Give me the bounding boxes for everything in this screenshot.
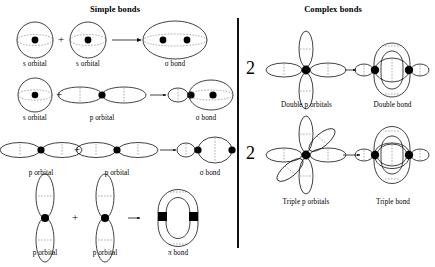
sigma-bond-sp [168,80,233,110]
label-sigma-bond-pp: σ bond [180,169,240,177]
plus-sign-2: + [56,88,62,100]
double-p-orbitals [266,31,346,109]
plus-sign-1: + [58,33,64,45]
double-bond-result [355,43,429,97]
label-pi-bond: π bond [148,249,208,257]
label-s-orbital-1: s orbital [5,60,65,68]
label-triple-bond: Triple bond [357,198,429,206]
plus-sign-4: + [72,211,78,223]
p-orbital-horizontal-1 [58,87,146,103]
plus-sign-3: + [74,143,80,155]
diagram-artwork [0,0,435,267]
orbital-bonding-diagram: Simple bonds Complex bonds [0,0,435,267]
row-double-bond [266,31,429,109]
label-sigma-bond-ss: σ bond [145,60,205,68]
pi-bond-cloud [158,190,198,247]
sigma-bond-pp [177,137,236,163]
label-p-orbital-3: p orbital [87,169,147,177]
triple-p-orbitals [266,116,346,194]
label-p-orbital-4: p orbital [15,249,75,257]
s-orbital-2 [70,22,106,58]
label-triple-p-orbitals: Triple p orbitals [266,198,346,206]
p-orbital-horizontal-2 [0,143,82,158]
s-orbital-3 [18,78,52,112]
triple-bond-result [355,127,429,184]
coefficient-double: 2 [246,58,255,79]
label-s-orbital-2: s orbital [58,60,118,68]
label-p-orbital-5: p orbital [75,249,135,257]
row-triple-bond [266,116,429,194]
s-orbital-1 [17,22,53,58]
label-p-orbital-1: p orbital [72,114,132,122]
label-double-p-orbitals: Double p orbitals [264,101,349,109]
p-orbital-horizontal-3 [76,143,158,158]
label-sigma-bond-sp: σ bond [176,114,236,122]
label-double-bond: Double bond [355,101,430,109]
label-s-orbital-3: s orbital [5,114,65,122]
coefficient-triple: 2 [246,143,255,164]
row-s-plus-s [17,21,207,59]
label-p-orbital-2: p orbital [11,169,71,177]
row-s-plus-p [18,78,233,112]
row-p-plus-p [0,137,236,163]
sigma-bond-ss [143,21,207,59]
